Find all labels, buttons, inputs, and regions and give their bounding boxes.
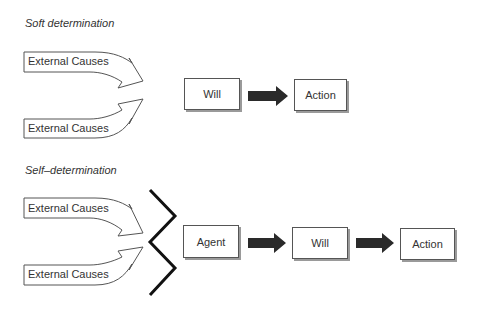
action-box-self: Action (400, 228, 455, 260)
zigzag-barrier (150, 190, 175, 295)
agent-box: Agent (183, 225, 239, 258)
will-box-self: Will (292, 227, 348, 259)
action-box-soft: Action (294, 79, 347, 111)
self-determination-title: Self–determination (25, 164, 117, 176)
external-causes-label: External Causes (28, 122, 109, 134)
block-arrow-will-action-self (356, 233, 394, 253)
soft-determination-title: Soft determination (25, 17, 114, 29)
external-causes-label: External Causes (28, 55, 109, 67)
external-causes-label: External Causes (28, 268, 109, 280)
will-box-soft: Will (184, 78, 240, 110)
block-arrow-will-action-soft (248, 86, 288, 106)
block-arrow-agent-will (248, 233, 286, 253)
external-causes-label: External Causes (28, 202, 109, 214)
